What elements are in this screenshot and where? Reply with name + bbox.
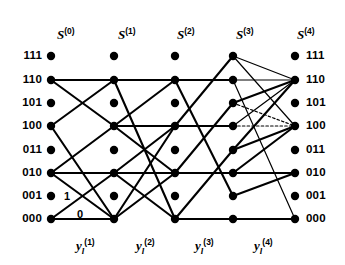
state-label-left-010: 010 <box>16 167 42 179</box>
trellis-node <box>171 99 179 107</box>
state-label-right-001: 001 <box>306 190 326 202</box>
trellis-node <box>291 52 299 60</box>
trellis-edge <box>51 126 114 173</box>
state-label-right-101: 101 <box>306 97 326 109</box>
output-superscript: (2) <box>144 237 154 247</box>
trellis-node <box>229 122 237 130</box>
trellis-node <box>110 76 118 84</box>
state-label-left-011: 011 <box>16 144 42 156</box>
state-label-right-011: 011 <box>306 144 325 156</box>
trellis-node <box>47 215 55 223</box>
trellis-node <box>171 122 179 130</box>
edge-bit-label-0: 0 <box>77 209 83 220</box>
trellis-node <box>110 122 118 130</box>
trellis-node <box>229 169 237 177</box>
trellis-node <box>47 169 55 177</box>
trellis-edge <box>233 173 295 196</box>
trellis-node <box>171 76 179 84</box>
state-label-right-010: 010 <box>306 167 326 179</box>
state-label-left-101: 101 <box>16 97 42 109</box>
state-label-left-111: 111 <box>16 50 42 62</box>
trellis-node <box>291 192 299 200</box>
state-label-left-000: 000 <box>16 213 42 225</box>
trellis-node <box>110 52 118 60</box>
trellis-node <box>110 99 118 107</box>
stage-superscript: (1) <box>125 26 135 36</box>
state-label-left-110: 110 <box>16 74 42 86</box>
trellis-node <box>229 192 237 200</box>
trellis-node <box>171 192 179 200</box>
output-superscript: (1) <box>84 237 94 247</box>
state-label-left-100: 100 <box>16 120 42 132</box>
state-label-right-100: 100 <box>306 120 326 132</box>
trellis-node <box>110 169 118 177</box>
trellis-diagram-figure: 111110101100011010001000 111110101100011… <box>0 0 345 265</box>
output-header-2: yl(3) <box>195 239 214 252</box>
trellis-node <box>229 52 237 60</box>
trellis-node <box>171 52 179 60</box>
trellis-node <box>229 146 237 154</box>
stage-header-2: S(2) <box>177 28 195 41</box>
trellis-node <box>291 146 299 154</box>
trellis-node <box>229 99 237 107</box>
state-label-right-000: 000 <box>306 213 326 225</box>
trellis-node <box>110 215 118 223</box>
output-superscript: (4) <box>262 237 272 247</box>
trellis-edge <box>233 56 295 80</box>
trellis-node <box>229 76 237 84</box>
trellis-node <box>47 146 55 154</box>
stage-superscript: (0) <box>64 26 74 36</box>
stage-header-1: S(1) <box>118 28 136 41</box>
trellis-node <box>171 169 179 177</box>
trellis-node <box>47 192 55 200</box>
output-subscript: l <box>142 246 145 256</box>
output-header-3: yl(4) <box>254 239 273 252</box>
output-superscript: (3) <box>203 237 213 247</box>
trellis-node <box>291 169 299 177</box>
stage-header-0: S(0) <box>57 28 75 41</box>
state-label-right-110: 110 <box>306 74 325 86</box>
state-label-left-001: 001 <box>16 190 42 202</box>
trellis-node <box>47 52 55 60</box>
trellis-edge <box>175 103 233 173</box>
trellis-node <box>110 192 118 200</box>
state-label-right-111: 111 <box>306 50 325 62</box>
trellis-node <box>229 215 237 223</box>
output-subscript: l <box>260 246 263 256</box>
trellis-node <box>291 76 299 84</box>
trellis-node <box>47 99 55 107</box>
edge-bit-label-1: 1 <box>64 191 70 202</box>
stage-header-4: S(4) <box>297 28 315 41</box>
trellis-edge <box>175 150 233 219</box>
trellis-edge <box>233 126 295 173</box>
stage-superscript: (2) <box>184 26 194 36</box>
trellis-canvas <box>0 0 345 265</box>
trellis-node <box>291 215 299 223</box>
output-header-1: yl(2) <box>136 239 155 252</box>
stage-superscript: (3) <box>243 26 253 36</box>
stage-superscript: (4) <box>304 26 314 36</box>
trellis-node <box>47 76 55 84</box>
trellis-node <box>171 146 179 154</box>
trellis-edge <box>233 80 295 126</box>
trellis-edge <box>175 56 233 126</box>
trellis-node <box>47 122 55 130</box>
trellis-node <box>291 122 299 130</box>
trellis-node <box>110 146 118 154</box>
stage-header-3: S(3) <box>236 28 254 41</box>
output-header-0: yl(1) <box>76 239 95 252</box>
output-subscript: l <box>82 246 85 256</box>
trellis-node <box>171 215 179 223</box>
output-subscript: l <box>201 246 204 256</box>
trellis-node <box>291 99 299 107</box>
